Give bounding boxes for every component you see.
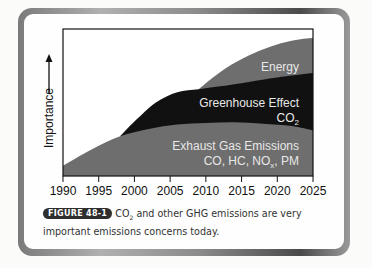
caption-text-co: CO xyxy=(115,208,129,219)
x-tick-label: 1990 xyxy=(50,184,77,198)
x-tick-label: 2000 xyxy=(121,184,148,198)
exhaust-label: Exhaust Gas Emissions xyxy=(172,139,299,153)
x-tick-label: 2015 xyxy=(228,184,255,198)
x-tick-label: 2010 xyxy=(193,184,220,198)
x-tick-label: 2020 xyxy=(264,184,291,198)
exhaust-species-label: CO, HC, NOx, PM xyxy=(204,154,299,170)
y-axis-label-group: Importance xyxy=(42,54,56,148)
figure-caption: FIGURE 48-1CO2 and other GHG emissions a… xyxy=(43,207,343,239)
x-tick-label: 2025 xyxy=(300,184,327,198)
x-axis: 19901995200020052010201520202025 xyxy=(50,176,327,198)
energy-label: Energy xyxy=(261,60,299,74)
x-tick-label: 1995 xyxy=(85,184,112,198)
y-axis-label: Importance xyxy=(42,88,56,148)
x-tick-label: 2005 xyxy=(157,184,184,198)
up-arrow-head-icon xyxy=(46,54,53,62)
figure-badge: FIGURE 48-1 xyxy=(43,208,112,219)
greenhouse-label: Greenhouse Effect xyxy=(199,96,300,110)
